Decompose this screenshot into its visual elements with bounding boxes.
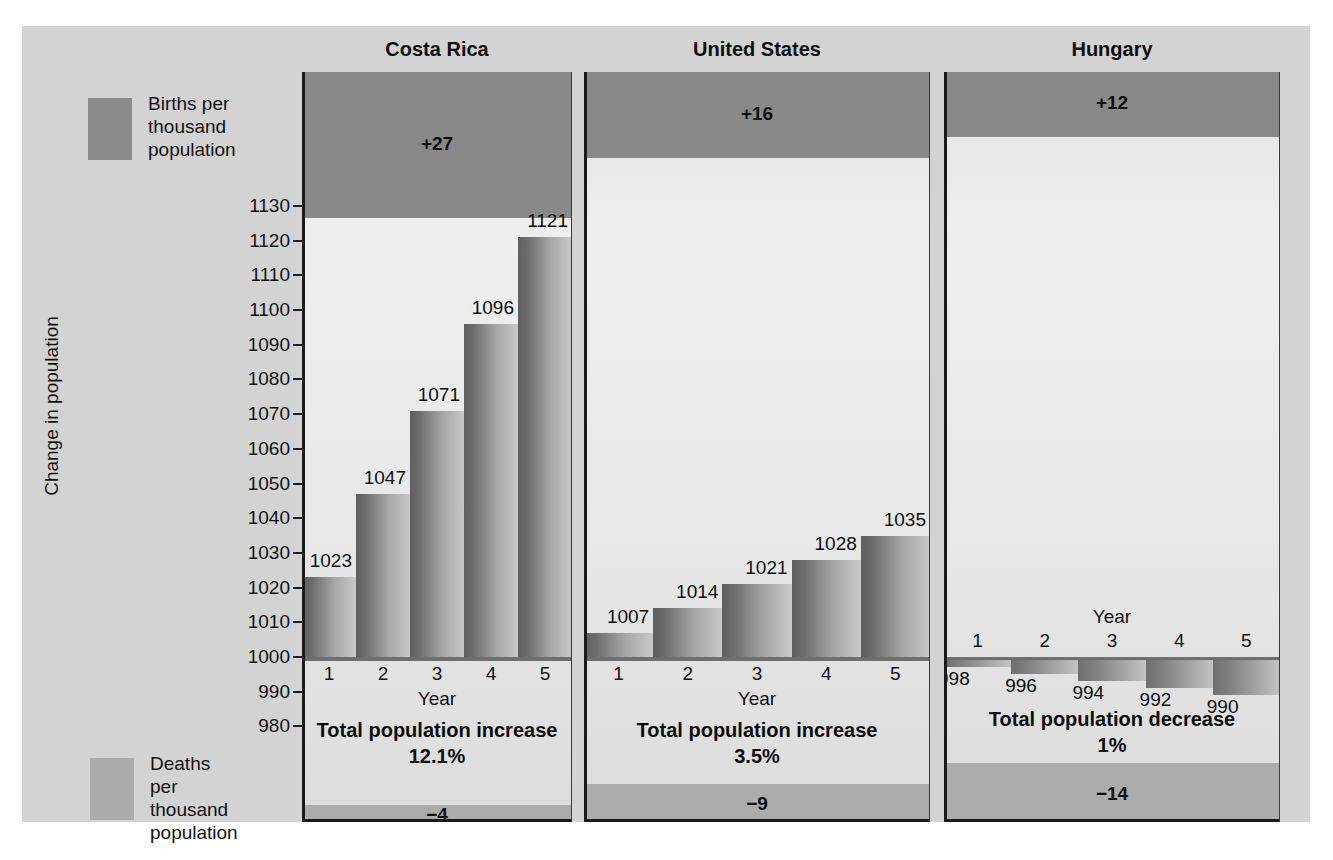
total-label-hungary: Total population decrease [944, 708, 1280, 731]
y-tick-1110: 1110 [160, 264, 290, 286]
y-tick-1030: 1030 [160, 542, 290, 564]
total-value-hungary: 1% [944, 734, 1280, 757]
y-tick-mark [293, 309, 302, 311]
panel-body: +12−1499899699499299012345YearTotal popu… [944, 72, 1280, 822]
births-value-costa-rica: +27 [302, 133, 572, 155]
y-tick-mark [293, 656, 302, 658]
x-axis-title: Year [302, 688, 572, 710]
total-label-costa-rica: Total population increase [302, 719, 572, 742]
total-value-costa-rica: 12.1% [302, 745, 572, 768]
deaths-value-hungary: −14 [944, 783, 1280, 805]
y-tick-1090: 1090 [160, 334, 290, 356]
bar [653, 608, 722, 657]
bar-value-label: 1096 [416, 297, 514, 319]
x-tick-4: 4 [471, 663, 511, 685]
total-label-united-states: Total population increase [584, 719, 930, 742]
y-tick-mark [293, 413, 302, 415]
y-tick-980: 980 [160, 715, 290, 737]
y-tick-mark [293, 274, 302, 276]
y-tick-1100: 1100 [160, 299, 290, 321]
x-tick-3: 3 [1092, 630, 1132, 652]
y-tick-1020: 1020 [160, 577, 290, 599]
panel-title-united-states: United States [584, 38, 930, 61]
deaths-swatch-icon [90, 758, 134, 820]
bar-value-label: 998 [944, 668, 1005, 690]
y-tick-1050: 1050 [160, 473, 290, 495]
x-tick-5: 5 [525, 663, 565, 685]
bar [944, 660, 1011, 667]
bar [302, 577, 356, 657]
x-axis-title: Year [944, 606, 1280, 628]
y-tick-mark [293, 552, 302, 554]
y-tick-mark [293, 205, 302, 207]
panel-hungary: +12−1499899699499299012345YearTotal popu… [944, 72, 1280, 822]
y-tick-990: 990 [160, 681, 290, 703]
y-tick-mark [293, 587, 302, 589]
bar-value-label: 1028 [744, 533, 857, 555]
panel-costa-rica: +27−41023104710711096112112345YearTotal … [302, 72, 572, 822]
y-tick-mark [293, 240, 302, 242]
bar [518, 237, 572, 657]
x-tick-1: 1 [309, 663, 349, 685]
panel-title-costa-rica: Costa Rica [302, 38, 572, 61]
y-tick-mark [293, 483, 302, 485]
bar [356, 494, 410, 657]
y-tick-mark [293, 517, 302, 519]
panel-united-states: +16−91007101410211028103512345YearTotal … [584, 72, 930, 822]
y-tick-mark [293, 344, 302, 346]
bar-value-label: 996 [1005, 675, 1072, 697]
panel-body: +27−41023104710711096112112345YearTotal … [302, 72, 572, 822]
bar [1213, 660, 1280, 695]
y-tick-mark [293, 448, 302, 450]
births-value-united-states: +16 [584, 103, 930, 125]
y-tick-mark [293, 621, 302, 623]
x-tick-4: 4 [1159, 630, 1199, 652]
bar [861, 536, 930, 657]
y-tick-1000: 1000 [160, 646, 290, 668]
y-tick-1070: 1070 [160, 403, 290, 425]
bar [722, 584, 791, 657]
y-tick-mark [293, 378, 302, 380]
bar-value-label: 1035 [813, 509, 926, 531]
y-tick-1120: 1120 [160, 230, 290, 252]
x-tick-3: 3 [417, 663, 457, 685]
bar-value-label: 1007 [584, 606, 649, 628]
bar [410, 411, 464, 657]
bar [464, 324, 518, 657]
y-tick-1080: 1080 [160, 368, 290, 390]
bar [1011, 660, 1078, 674]
x-tick-5: 5 [1226, 630, 1266, 652]
panel-body: +16−91007101410211028103512345YearTotal … [584, 72, 930, 822]
bar [1078, 660, 1145, 681]
bar-value-label: 1014 [605, 581, 718, 603]
baseline-1000 [584, 657, 930, 661]
x-tick-1: 1 [599, 663, 639, 685]
x-tick-4: 4 [806, 663, 846, 685]
y-tick-1060: 1060 [160, 438, 290, 460]
y-tick-1040: 1040 [160, 507, 290, 529]
bar [584, 633, 653, 657]
x-axis-title: Year [584, 688, 930, 710]
figure-root: Births per thousand population Deaths pe… [0, 0, 1333, 860]
x-tick-1: 1 [958, 630, 998, 652]
y-tick-mark [293, 725, 302, 727]
births-value-hungary: +12 [944, 92, 1280, 114]
bar-value-label: 1047 [308, 467, 406, 489]
bar-value-label: 994 [1072, 682, 1139, 704]
panel-title-hungary: Hungary [944, 38, 1280, 61]
x-tick-2: 2 [363, 663, 403, 685]
x-tick-2: 2 [668, 663, 708, 685]
bar-value-label: 1023 [302, 550, 352, 572]
deaths-value-costa-rica: −4 [302, 804, 572, 822]
deaths-value-united-states: −9 [584, 793, 930, 815]
bar-value-label: 1071 [362, 384, 460, 406]
y-axis-ticks: 1130112011101100109010801070106010501040… [150, 0, 290, 860]
bar-value-label: 1021 [674, 557, 787, 579]
y-tick-1010: 1010 [160, 611, 290, 633]
bar [792, 560, 861, 657]
bar [1146, 660, 1213, 688]
x-tick-3: 3 [737, 663, 777, 685]
baseline-1000 [302, 657, 572, 661]
y-axis-title: Change in population [41, 281, 63, 531]
bar-value-label: 1121 [470, 210, 568, 232]
